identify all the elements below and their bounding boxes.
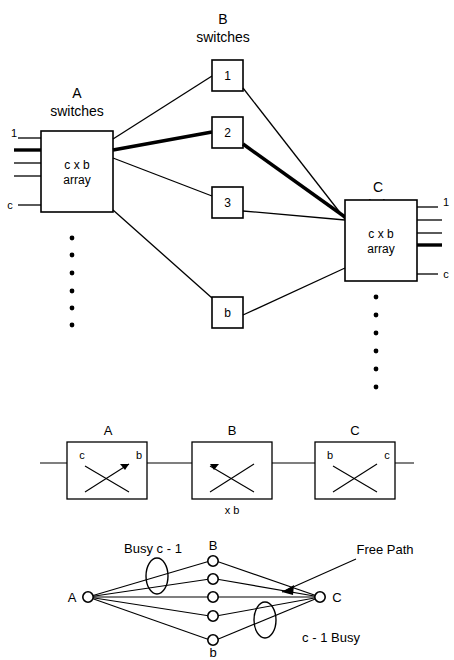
bottom-column-top-label: B [209, 538, 218, 553]
middle-stage-group: A c b B x b C b c [40, 423, 414, 516]
middle-switch-a-left-label: c [79, 449, 85, 461]
stage-b-switch-label-2: 2 [224, 126, 231, 140]
stage-b-title-line1: B [218, 11, 227, 27]
stage-b-switch-label-b: b [224, 306, 231, 320]
stage-a-ellipsis-dot [70, 306, 75, 311]
bottom-node-c [315, 592, 325, 602]
bottom-node-b-3 [208, 592, 218, 602]
bottom-node-b-2 [208, 574, 218, 584]
bottom-edge-a-5 [88, 597, 210, 640]
stage-a-ellipsis-dot [70, 236, 75, 241]
stage-a-ellipsis-dot [70, 323, 75, 328]
bottom-annotation-right: c - 1 Busy [302, 630, 360, 645]
clos-network-diagram: B switches A switches C switches 1 c c x… [0, 0, 454, 660]
link-a-to-b1 [113, 76, 212, 139]
stage-c-ellipsis-dot [374, 349, 379, 354]
stage-b-title-line2: switches [196, 29, 250, 45]
middle-switch-b-sub-label: x b [225, 504, 240, 516]
bottom-edge-a-4 [88, 597, 210, 616]
bottom-annotation-free-path: Free Path [356, 542, 413, 557]
top-stage-group: B switches A switches C switches 1 c c x… [7, 11, 449, 389]
stage-a-ellipsis-dot [70, 289, 75, 294]
stage-c-box-line2: array [367, 242, 394, 256]
bottom-annotation-left: Busy c - 1 [124, 541, 182, 556]
middle-switch-b-box [192, 442, 272, 499]
stage-a-input-bottom-label: c [7, 199, 13, 211]
link-b4-to-c [243, 268, 345, 315]
link-b3-to-c [243, 211, 345, 220]
stage-a-input-top-label: 1 [11, 127, 17, 139]
stage-c-box-line1: c x b [368, 227, 394, 241]
bottom-node-c-label: C [332, 590, 341, 605]
stage-a-ellipsis-dot [70, 271, 75, 276]
middle-switch-c-title: C [350, 423, 359, 438]
stage-c-ellipsis-dot [374, 295, 379, 300]
middle-switch-a-title: A [104, 423, 113, 438]
figure-canvas: B switches A switches C switches 1 c c x… [0, 0, 454, 660]
stage-b-switch-label-3: 3 [224, 196, 231, 210]
bottom-node-b-4 [208, 611, 218, 621]
stage-c-output-top-label: 1 [443, 196, 449, 208]
middle-switch-b-title: B [228, 423, 237, 438]
stage-a-box-line2: array [63, 173, 90, 187]
stage-c-ellipsis-dot [374, 385, 379, 390]
middle-switch-c-left-label: b [327, 449, 333, 461]
stage-c-ellipsis-dot [374, 331, 379, 336]
stage-a-box-line1: c x b [64, 158, 90, 172]
stage-c-ellipsis-dot [374, 367, 379, 372]
link-b2-to-c-highlighted [243, 144, 345, 217]
bottom-column-bottom-label: b [209, 645, 216, 660]
bottom-node-b-1 [208, 556, 218, 566]
bottom-stage-group: Busy c - 1 c - 1 Busy Free Path B b [68, 538, 414, 660]
link-a-to-b3 [113, 158, 212, 196]
bottom-node-a-label: A [68, 590, 77, 605]
middle-switch-c-right-label: c [384, 449, 390, 461]
stage-c-title-line1: C [373, 179, 383, 195]
bottom-node-b-5 [208, 635, 218, 645]
bottom-edge-c-1 [216, 561, 320, 597]
bottom-edge-a-1 [88, 561, 210, 597]
stage-a-title-line1: A [72, 85, 82, 101]
middle-switch-a-right-label: b [136, 449, 142, 461]
stage-a-ellipsis-dot [70, 253, 75, 258]
stage-c-ellipsis-dot [374, 313, 379, 318]
bottom-busy-ellipse-left [146, 558, 168, 594]
bottom-edge-c-4 [216, 597, 320, 616]
stage-b-switch-label-1: 1 [224, 69, 231, 83]
stage-a-title-line2: switches [50, 103, 104, 119]
bottom-node-a [83, 592, 93, 602]
link-a-to-b2-highlighted [113, 132, 212, 150]
stage-c-output-bottom-label: c [443, 268, 449, 280]
link-a-to-b4 [113, 210, 212, 298]
